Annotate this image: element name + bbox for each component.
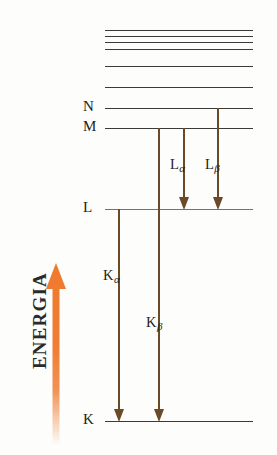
energy-level-line-upper3 <box>105 49 253 50</box>
transition-label-subscript-L-alpha: α <box>179 162 185 174</box>
transition-label-L-alpha: Lα <box>170 157 185 174</box>
energy-level-line-upper5 <box>105 36 253 37</box>
transition-arrowhead-K-alpha <box>114 409 124 422</box>
transition-label-base-K-beta: K <box>146 314 156 330</box>
transition-label-L-beta: Lβ <box>205 157 220 174</box>
transition-arrowhead-L-alpha <box>179 197 189 210</box>
transition-label-subscript-K-beta: β <box>156 320 162 332</box>
energy-level-line-upper1 <box>105 87 253 88</box>
transition-label-base-K-alpha: K <box>103 267 113 283</box>
energy-level-label-L: L <box>83 200 92 215</box>
transition-label-K-beta: Kβ <box>146 315 162 332</box>
energy-level-line-upper4 <box>105 42 253 43</box>
energy-axis-label: ENERGIA <box>30 246 49 396</box>
energy-axis: ENERGIA <box>8 255 72 445</box>
energy-level-line-upper6 <box>105 30 253 31</box>
transition-label-base-L-alpha: L <box>170 156 179 172</box>
transition-line-K-alpha <box>118 209 120 410</box>
energy-level-line-N <box>105 108 253 109</box>
transition-label-subscript-L-beta: β <box>214 162 220 174</box>
transition-label-subscript-K-alpha: α <box>113 273 119 285</box>
energy-level-line-K <box>105 421 253 422</box>
energy-level-line-M <box>105 128 253 129</box>
transition-label-K-alpha: Kα <box>103 268 120 285</box>
energy-level-line-upper2 <box>105 66 253 67</box>
transition-label-base-L-beta: L <box>205 156 214 172</box>
transition-line-K-beta <box>158 128 160 410</box>
energy-level-diagram: NMLK KαKβLαLβ ENERGIA <box>0 0 277 455</box>
energy-level-label-M: M <box>83 119 97 134</box>
transition-arrowhead-L-beta <box>213 197 223 210</box>
energy-level-label-K: K <box>83 412 94 427</box>
transition-arrowhead-K-beta <box>154 409 164 422</box>
energy-level-label-N: N <box>83 99 94 114</box>
transition-line-L-beta <box>217 108 219 198</box>
